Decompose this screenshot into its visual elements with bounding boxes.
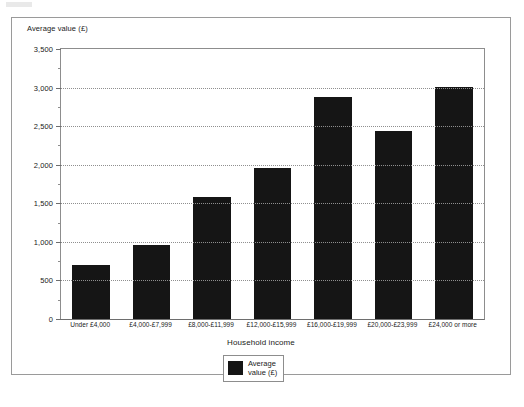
y-axis-minor-tick: [58, 300, 61, 301]
bar: [254, 168, 291, 319]
x-axis-tick-label: £20,000-£23,999: [367, 321, 417, 328]
y-axis-minor-tick: [58, 261, 61, 262]
bar: [72, 265, 109, 319]
plot-area: 05001,0001,5002,0002,5003,0003,500: [60, 48, 485, 320]
y-gridline: [61, 88, 484, 89]
y-gridline: [61, 280, 484, 281]
y-gridline: [61, 126, 484, 127]
bar: [314, 97, 351, 319]
x-axis-title: Household income: [12, 338, 510, 347]
x-axis-tick-label: £8,000-£11,999: [188, 321, 234, 328]
legend-label-average-value: Average value (£): [248, 359, 277, 378]
x-axis-tick-labels: Under £4,000£4,000-£7,999£8,000-£11,999£…: [60, 321, 483, 335]
y-axis-tick: [56, 280, 61, 281]
y-axis-tick-label: 3,000: [34, 83, 53, 92]
bar: [193, 197, 230, 319]
y-axis-minor-tick: [58, 107, 61, 108]
y-axis-minor-tick: [58, 223, 61, 224]
y-axis-tick: [56, 126, 61, 127]
y-gridline: [61, 165, 484, 166]
y-axis-tick: [56, 49, 61, 50]
x-axis-tick-label: £16,000-£19,999: [307, 321, 357, 328]
y-axis-tick: [56, 203, 61, 204]
y-axis-tick: [56, 165, 61, 166]
x-axis-tick-label: Under £4,000: [70, 321, 110, 328]
chart-legend: Average value (£): [223, 355, 284, 382]
y-axis-title: Average value (£): [27, 24, 88, 33]
y-axis-tick: [56, 88, 61, 89]
legend-label-line2: value (£): [248, 368, 277, 377]
y-axis-tick-label: 0: [49, 315, 53, 324]
x-axis-tick-label: £24,000 or more: [429, 321, 477, 328]
chart-figure-frame: Average value (£) 05001,0001,5002,0002,5…: [11, 17, 511, 375]
y-axis-tick-label: 1,000: [34, 237, 53, 246]
y-axis-minor-tick: [58, 68, 61, 69]
bar: [375, 131, 412, 319]
legend-label-line1: Average: [248, 359, 276, 368]
bar: [133, 245, 170, 319]
y-axis-tick: [56, 242, 61, 243]
x-axis-tick-label: £12,000-£15,999: [247, 321, 297, 328]
y-gridline: [61, 203, 484, 204]
y-axis-minor-tick: [58, 184, 61, 185]
x-axis-tick-label: £4,000-£7,999: [129, 321, 172, 328]
scan-artifact: [6, 2, 32, 7]
y-axis-tick-label: 2,500: [34, 122, 53, 131]
legend-swatch-average-value: [228, 361, 243, 375]
y-axis-tick-label: 500: [40, 276, 53, 285]
y-axis-minor-tick: [58, 145, 61, 146]
y-axis-tick-label: 2,000: [34, 160, 53, 169]
y-axis-tick: [56, 319, 61, 320]
bars-layer: [61, 49, 484, 319]
y-axis-tick-label: 3,500: [34, 45, 53, 54]
y-axis-tick-label: 1,500: [34, 199, 53, 208]
y-gridline: [61, 242, 484, 243]
